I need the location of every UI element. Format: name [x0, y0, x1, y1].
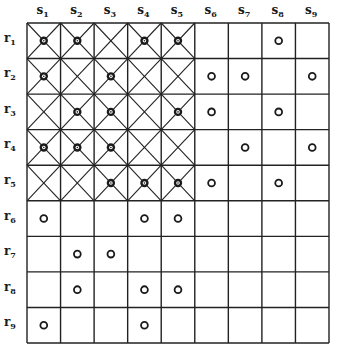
open-mark-r3-s8	[275, 108, 282, 115]
filled-mark-r5-s3	[107, 179, 115, 187]
row-label-r3: r3	[4, 102, 22, 118]
filled-mark-r2-s3	[107, 72, 115, 80]
filled-mark-r3-s2	[73, 108, 81, 116]
column-label-s3: s3	[93, 3, 127, 19]
row-label-r8: r8	[4, 280, 22, 296]
filled-mark-r5-s5	[174, 179, 182, 187]
open-mark-r5-s6	[208, 180, 215, 187]
open-mark-r2-s7	[242, 73, 249, 80]
row-label-r6: r6	[4, 209, 22, 225]
filled-mark-r1-s5	[174, 37, 182, 45]
column-label-s6: s6	[194, 3, 228, 19]
open-mark-r8-s2	[74, 286, 81, 293]
column-label-s7: s7	[227, 3, 261, 19]
filled-mark-r4-s3	[107, 143, 115, 151]
open-mark-r7-s3	[107, 251, 114, 258]
filled-mark-r4-s2	[73, 143, 81, 151]
filled-mark-r2-s1	[40, 72, 48, 80]
filled-mark-r3-s3	[107, 108, 115, 116]
filled-mark-r1-s2	[73, 37, 81, 45]
open-mark-r6-s4	[141, 215, 148, 222]
row-label-r2: r2	[4, 66, 22, 82]
open-mark-r8-s4	[141, 286, 148, 293]
open-mark-r4-s9	[309, 144, 316, 151]
open-mark-r5-s8	[275, 180, 282, 187]
open-mark-r3-s6	[208, 108, 215, 115]
filled-mark-r5-s4	[140, 179, 148, 187]
grid	[26, 22, 330, 344]
open-mark-r6-s5	[175, 215, 182, 222]
open-mark-r2-s6	[208, 73, 215, 80]
column-label-s2: s2	[59, 3, 93, 19]
row-label-r9: r9	[4, 315, 22, 331]
row-label-r1: r1	[4, 31, 22, 47]
column-label-s5: s5	[160, 3, 194, 19]
open-mark-r9-s1	[40, 322, 47, 329]
column-label-s8: s8	[261, 3, 295, 19]
open-mark-r7-s2	[74, 251, 81, 258]
filled-mark-r3-s5	[174, 108, 182, 116]
open-mark-r1-s8	[275, 37, 282, 44]
row-label-r5: r5	[4, 173, 22, 189]
filled-mark-r1-s1	[40, 37, 48, 45]
row-label-r4: r4	[4, 137, 22, 153]
filled-mark-r1-s4	[140, 37, 148, 45]
filled-mark-r4-s1	[40, 143, 48, 151]
row-label-r7: r7	[4, 244, 22, 260]
open-mark-r2-s9	[309, 73, 316, 80]
column-label-s4: s4	[126, 3, 160, 19]
column-label-s1: s1	[26, 3, 60, 19]
incidence-grid-diagram: s1s2s3s4s5s6s7s8s9 r1r2r3r4r5r6r7r8r9	[0, 0, 340, 355]
column-label-s9: s9	[294, 3, 328, 19]
open-mark-r8-s5	[175, 286, 182, 293]
open-mark-r9-s4	[141, 322, 148, 329]
open-mark-r4-s7	[242, 144, 249, 151]
open-mark-r6-s1	[40, 215, 47, 222]
